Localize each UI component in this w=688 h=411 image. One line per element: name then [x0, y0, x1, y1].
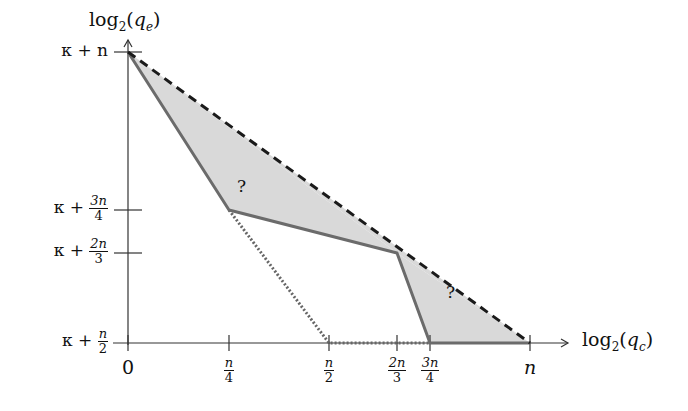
x-tick-label-n-2: n2 [309, 356, 349, 385]
y-tick-label-k-plus-3n-4: κ + 3n4 [8, 194, 108, 223]
x-axis-label: log2(qc) [582, 328, 653, 354]
x-tick-label-n: n [510, 356, 550, 378]
region-label-upper: ? [237, 176, 246, 196]
y-tick-label-k-plus-n-2: κ + n2 [8, 327, 108, 356]
x-tick-label-n-4: n4 [209, 356, 249, 385]
x-tick-label-0: 0 [108, 356, 148, 378]
region-label-lower: ? [446, 282, 455, 302]
x-tick-label-3n-4: 3n4 [410, 356, 450, 385]
y-axis-label: log2(qe) [89, 8, 160, 34]
y-tick-label-k-plus-n: κ + n [8, 40, 108, 60]
y-tick-label-k-plus-2n-3: κ + 2n3 [8, 237, 108, 266]
